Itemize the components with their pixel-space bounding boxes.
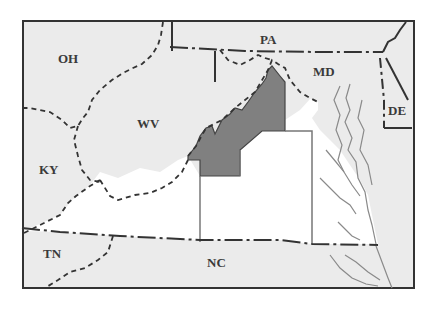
label-de: DE [388, 103, 406, 118]
label-wv: WV [137, 116, 160, 131]
label-ky: KY [39, 162, 59, 177]
label-nc: NC [207, 255, 226, 270]
label-pa: PA [260, 32, 277, 47]
label-tn: TN [43, 246, 62, 261]
label-oh: OH [58, 51, 78, 66]
label-md: MD [313, 64, 335, 79]
regional-map: OH PA MD DE WV KY TN NC [0, 0, 440, 315]
